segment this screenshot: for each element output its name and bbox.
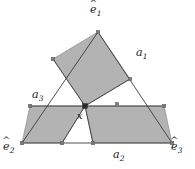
marker-bottom-left bbox=[20, 141, 24, 145]
point-x-marker bbox=[83, 104, 88, 109]
marker-left-edge bbox=[51, 57, 55, 61]
label-e1: ^e1 bbox=[90, 4, 101, 15]
marker-apex bbox=[96, 30, 100, 34]
marker-chord-left bbox=[28, 104, 32, 108]
label-a3: a3 bbox=[32, 89, 43, 100]
label-e3: ^e3 bbox=[171, 141, 182, 152]
label-a2-subscript: 2 bbox=[120, 154, 125, 163]
marker-right-edge bbox=[128, 77, 132, 81]
label-a3-subscript: 3 bbox=[39, 94, 44, 103]
marker-base-right-mid bbox=[91, 141, 95, 145]
label-e2: ^e2 bbox=[3, 141, 14, 152]
label-a1-subscript: 1 bbox=[143, 52, 148, 61]
region-lower-right-parallelogram bbox=[85, 106, 172, 143]
figure-canvas bbox=[0, 0, 195, 169]
label-point-x: x bbox=[77, 111, 83, 121]
region-lower-left-parallelogram bbox=[22, 106, 85, 143]
hat-accent-e3: ^ bbox=[170, 136, 178, 145]
marker-interior-right bbox=[115, 102, 118, 105]
marker-chord-right bbox=[162, 104, 166, 108]
label-e2-subscript: 2 bbox=[10, 146, 15, 155]
label-e3-subscript: 3 bbox=[178, 146, 183, 155]
shaded-regions bbox=[22, 32, 172, 143]
label-a1: a1 bbox=[136, 47, 147, 58]
hat-accent-e2: ^ bbox=[2, 136, 10, 145]
region-upper-rhombus bbox=[53, 32, 130, 106]
hat-accent-e1: ^ bbox=[89, 0, 97, 8]
marker-base-left-mid bbox=[60, 141, 64, 145]
interior-point-group bbox=[83, 104, 88, 109]
label-e1-subscript: 1 bbox=[97, 9, 102, 18]
geometry-figure: ^e1 ^e2 ^e3 a1 a2 a3 x bbox=[0, 0, 195, 169]
label-a2: a2 bbox=[113, 149, 124, 160]
